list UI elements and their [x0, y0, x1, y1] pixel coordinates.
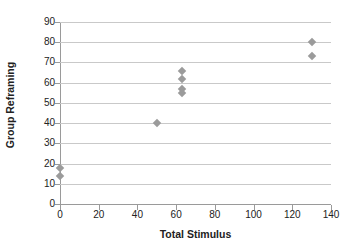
y-tick-label: 60: [15, 78, 55, 88]
data-point: [178, 66, 186, 74]
x-tick-label: 0: [40, 210, 80, 220]
y-tick-label: 90: [15, 17, 55, 27]
plot-area: [60, 22, 331, 204]
y-gridline: [60, 22, 331, 23]
y-gridline: [60, 103, 331, 104]
y-gridline: [60, 204, 331, 205]
y-gridline: [60, 62, 331, 63]
data-point: [307, 52, 315, 60]
y-tick-mark: [55, 22, 60, 23]
data-point: [56, 163, 64, 171]
x-tick-label: 100: [234, 210, 274, 220]
y-gridline: [60, 123, 331, 124]
data-point: [178, 74, 186, 82]
y-tick-label: 30: [15, 138, 55, 148]
x-tick-label: 20: [79, 210, 119, 220]
y-tick-mark: [55, 184, 60, 185]
y-tick-label: 20: [15, 159, 55, 169]
y-tick-mark: [55, 103, 60, 104]
y-tick-label: 50: [15, 98, 55, 108]
y-tick-mark: [55, 123, 60, 124]
x-axis-title: Total Stimulus: [60, 228, 331, 240]
x-tick-label: 120: [272, 210, 312, 220]
x-tick-label: 140: [311, 210, 351, 220]
y-gridline: [60, 143, 331, 144]
y-tick-mark: [55, 143, 60, 144]
y-tick-label: 40: [15, 118, 55, 128]
y-gridline: [60, 164, 331, 165]
y-tick-label: 70: [15, 57, 55, 67]
y-tick-mark: [55, 62, 60, 63]
y-gridline: [60, 184, 331, 185]
x-tick-label: 80: [195, 210, 235, 220]
y-tick-mark: [55, 164, 60, 165]
data-point: [56, 171, 64, 179]
y-tick-label: 10: [15, 179, 55, 189]
x-tick-label: 60: [156, 210, 196, 220]
y-gridline: [60, 83, 331, 84]
y-tick-label: 0: [15, 199, 55, 209]
data-point: [153, 119, 161, 127]
y-tick-label: 80: [15, 37, 55, 47]
y-gridline: [60, 42, 331, 43]
scatter-chart: Group Reframing Total Stimulus 010203040…: [0, 0, 351, 249]
data-point: [307, 38, 315, 46]
y-tick-mark: [55, 83, 60, 84]
y-tick-mark: [55, 42, 60, 43]
x-tick-label: 40: [117, 210, 157, 220]
